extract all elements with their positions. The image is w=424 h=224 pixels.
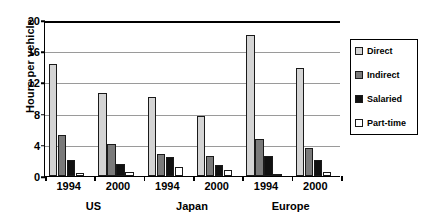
bar xyxy=(107,144,116,176)
y-tick-label: 8 xyxy=(34,109,40,121)
bar xyxy=(148,97,157,176)
legend-item[interactable]: Part-time xyxy=(355,117,414,129)
bar xyxy=(157,154,166,176)
legend-label: Part-time xyxy=(367,119,406,128)
x-tick-label: 1994 xyxy=(155,180,179,192)
x-tick-label: 2000 xyxy=(303,180,327,192)
legend-label: Indirect xyxy=(367,71,400,80)
legend-swatch-icon xyxy=(355,119,363,127)
bar xyxy=(215,165,224,176)
bar xyxy=(206,156,215,176)
bar xyxy=(58,135,67,176)
x-tick-mark xyxy=(341,176,343,181)
bar-chart: Hours per vehicle 048121620 199420001994… xyxy=(0,0,424,224)
legend-label: Direct xyxy=(367,47,393,56)
bars-layer xyxy=(45,21,340,176)
bar xyxy=(166,157,175,176)
legend-swatch-icon xyxy=(355,71,363,79)
y-tick-label: 20 xyxy=(28,15,40,27)
legend-item[interactable]: Direct xyxy=(355,45,414,57)
bar xyxy=(76,173,85,176)
legend: DirectIndirectSalariedPart-time xyxy=(350,39,418,135)
bar xyxy=(125,172,134,176)
bar xyxy=(264,156,273,176)
legend-swatch-icon xyxy=(355,95,363,103)
bar xyxy=(305,148,314,176)
x-tick-label: 1994 xyxy=(254,180,278,192)
bar xyxy=(273,174,282,176)
y-tick-label: 4 xyxy=(34,140,40,152)
bar xyxy=(314,160,323,176)
y-tick-label: 12 xyxy=(28,77,40,89)
bar xyxy=(296,68,305,176)
x-group-label: Europe xyxy=(272,200,310,212)
plot-area: 048121620 xyxy=(44,21,340,177)
bar xyxy=(224,170,233,176)
x-tick-label: 2000 xyxy=(204,180,228,192)
legend-item[interactable]: Indirect xyxy=(355,69,414,81)
bar xyxy=(255,139,264,176)
x-tick-label: 1994 xyxy=(56,180,80,192)
bar xyxy=(49,64,58,176)
bar xyxy=(116,164,125,176)
x-group-label: US xyxy=(86,200,101,212)
x-group-label: Japan xyxy=(176,200,208,212)
legend-swatch-icon xyxy=(355,47,363,55)
bar xyxy=(246,35,255,176)
y-tick-label: 16 xyxy=(28,46,40,58)
bar xyxy=(175,167,184,176)
bar xyxy=(98,93,107,176)
x-axis-group-labels: USJapanEurope xyxy=(44,200,340,216)
bar xyxy=(67,160,76,176)
bar xyxy=(323,172,332,176)
legend-label: Salaried xyxy=(367,95,402,104)
x-axis-tick-labels: 199420001994200019942000 xyxy=(44,180,340,196)
x-tick-label: 2000 xyxy=(106,180,130,192)
legend-item[interactable]: Salaried xyxy=(355,93,414,105)
y-tick-label: 0 xyxy=(34,171,40,183)
bar xyxy=(197,116,206,176)
